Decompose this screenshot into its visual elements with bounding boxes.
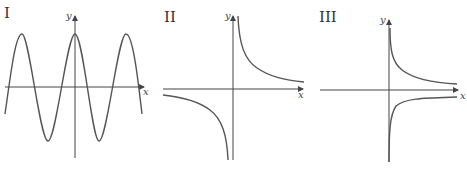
upper-branch xyxy=(390,28,457,84)
lower-branch xyxy=(389,97,457,162)
graph-reciprocal xyxy=(160,0,310,170)
panel-II: II y x xyxy=(160,0,310,170)
graph-cosine xyxy=(0,0,160,170)
upper-branch xyxy=(238,16,304,82)
panel-I: I y x xyxy=(0,0,160,170)
graph-reciprocal-sqrt xyxy=(310,0,467,170)
panel-III: III y x xyxy=(310,0,467,170)
lower-branch xyxy=(163,95,228,160)
